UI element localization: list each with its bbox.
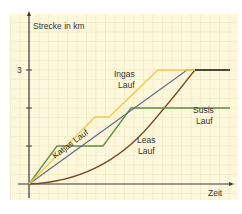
y-tick-label-3: 3 xyxy=(17,65,22,75)
x-axis-label: Zeit xyxy=(208,188,222,198)
distance-time-chart: Katjas Lauf Strecke in km 3 Zeit Ingas L… xyxy=(0,0,242,214)
label-inga-2: Lauf xyxy=(118,80,135,90)
label-susi-1: Susis xyxy=(193,105,214,115)
label-lea-1: Leas xyxy=(137,135,155,145)
label-lea-2: Lauf xyxy=(138,146,155,156)
y-axis-label: Strecke in km xyxy=(33,21,85,31)
label-inga-1: Ingas xyxy=(114,69,135,79)
label-susi-2: Lauf xyxy=(196,116,213,126)
y-axis-arrow-icon xyxy=(27,11,31,16)
